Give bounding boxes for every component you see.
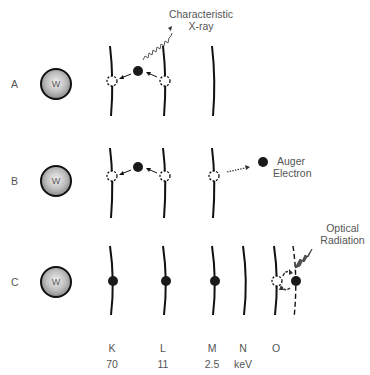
row-label-a: A	[11, 78, 18, 90]
shell-label-k: K	[97, 342, 127, 354]
row-label-b: B	[11, 175, 18, 187]
annotation-characteristic-xray: Characteristic X-ray	[165, 8, 237, 32]
excited-electron-c	[291, 276, 301, 286]
shell-energy-m: 2.5	[197, 358, 227, 370]
m-shell-b	[212, 148, 214, 218]
shell-label-n: N	[228, 342, 258, 354]
annotation-auger-electron: Auger Electron	[273, 155, 328, 179]
row-b-diagram	[41, 148, 268, 218]
xray-wave	[143, 33, 172, 60]
nucleus-label-b: W	[46, 175, 66, 187]
auger-electron	[258, 157, 268, 167]
vacancy-o-c	[272, 276, 282, 286]
nucleus-label-c: W	[46, 276, 66, 288]
electron-a	[133, 66, 143, 76]
vacancy-l-b	[160, 171, 170, 181]
auger-path	[227, 168, 245, 172]
vacancy-m-b	[209, 171, 219, 181]
electron-k-c	[108, 276, 118, 286]
electron-b	[133, 162, 143, 172]
optical-radiation-bolt	[295, 249, 312, 268]
energy-unit: keV	[228, 358, 258, 370]
n-shell-c	[243, 246, 246, 315]
shell-label-o: O	[261, 342, 291, 354]
annotation-optical-radiation: Optical Radiation	[315, 222, 370, 246]
electron-l-c	[161, 276, 171, 286]
atomic-shell-diagram	[0, 0, 370, 375]
row-a-diagram	[41, 26, 214, 116]
shell-energy-l: 11	[148, 358, 178, 370]
l-shell-b	[163, 148, 165, 218]
vacancy-k-b	[107, 171, 117, 181]
shell-energy-k: 70	[97, 358, 127, 370]
vacancy-l-a	[160, 76, 170, 86]
shell-label-l: L	[148, 342, 178, 354]
shell-label-m: M	[197, 342, 227, 354]
k-shell-b	[110, 148, 112, 218]
vacancy-k-a	[107, 76, 117, 86]
row-label-c: C	[11, 276, 19, 288]
electron-m-c	[210, 276, 220, 286]
nucleus-label-a: W	[46, 78, 66, 90]
m-shell-a	[212, 46, 214, 116]
row-c-diagram	[41, 246, 312, 318]
